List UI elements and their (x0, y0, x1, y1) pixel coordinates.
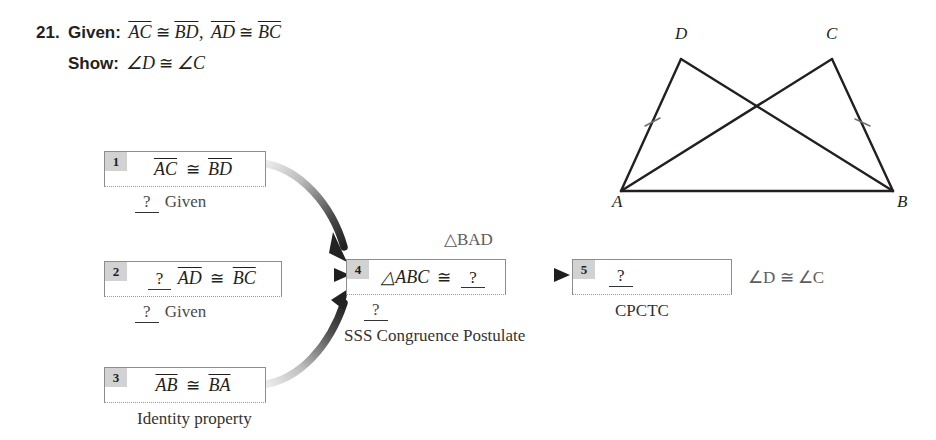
vertex-label-d: D (675, 24, 687, 44)
segment-db (681, 59, 893, 191)
box-4-triangle-abc: △ABC (381, 267, 429, 287)
box-number-2: 2 (105, 262, 127, 281)
box-3-congruence-symbol: ≅ (182, 376, 204, 395)
box-1-reason-blank[interactable]: ? (135, 193, 159, 213)
box-4-answer-above: △BAD (444, 229, 493, 250)
show-angle-c: ∠C (177, 52, 205, 74)
box-4-statement-blank[interactable]: ? (461, 269, 485, 289)
flowchart-box-3[interactable]: 3 AB ≅ BA (104, 367, 266, 403)
tick-mark-ad (645, 118, 660, 126)
congruence-symbol-2: ≅ (235, 22, 257, 43)
vertex-label-c: C (826, 24, 837, 44)
box-4-statement: △ABC ≅ ? (347, 266, 505, 289)
flowchart-box-2[interactable]: 2 ? AD ≅ BC (104, 261, 282, 297)
flowchart-box-1[interactable]: 1 AC ≅ BD (104, 151, 266, 187)
arrow-box1-to-box4 (262, 163, 347, 262)
flowchart-box-5[interactable]: 5 ? (572, 259, 732, 295)
box-1-reason: ? Given (133, 192, 206, 213)
box-number-1: 1 (105, 152, 127, 171)
box-2-segment-left: AD (177, 268, 202, 288)
congruence-symbol-1: ≅ (152, 22, 174, 43)
box-2-statement: ? AD ≅ BC (105, 268, 281, 290)
arrow-box3-to-box4 (262, 289, 348, 385)
box-3-reason-text: Identity property (137, 409, 252, 429)
box-number-5: 5 (573, 260, 595, 279)
arrow-box2-to-box4 (282, 268, 350, 282)
box-3-statement: AB ≅ BA (105, 375, 265, 396)
box-1-segment-left: AC (153, 159, 177, 179)
box-3-segment-right: BA (208, 375, 231, 395)
flowchart-box-4[interactable]: 4 △ABC ≅ ? (346, 259, 506, 295)
box-4-reason-text: SSS Congruence Postulate (344, 326, 525, 346)
vertex-label-b: B (897, 192, 907, 212)
tick-mark-bc (855, 119, 870, 126)
vertex-label-a: A (612, 192, 622, 212)
segment-ad (621, 59, 681, 191)
box-2-reason: ? Given (133, 302, 206, 323)
box-5-reason-text: CPCTC (615, 301, 669, 321)
show-label: Show: (68, 54, 119, 74)
box-4-congruence-symbol: ≅ (433, 268, 455, 287)
box-2-reason-text: Given (165, 302, 207, 321)
box-4-reason-blank[interactable]: ? (364, 301, 388, 321)
show-congruence-symbol: ≅ (155, 53, 177, 74)
box-5-statement: ? (573, 267, 731, 287)
show-angle-d: ∠D (126, 52, 155, 74)
worksheet-page: 21. Given: AC ≅ BD , AD ≅ BC Show: ∠D ≅ … (0, 0, 936, 440)
box-4-reason-blank-wrap: ? (362, 300, 390, 321)
problem-number: 21. (36, 23, 68, 43)
box-2-segment-right: BC (232, 268, 256, 288)
given-segment-bd: BD (174, 22, 199, 43)
segment-cb (832, 59, 893, 191)
arrow-box4-to-box5 (506, 268, 570, 282)
box-2-congruence-symbol: ≅ (206, 269, 228, 288)
box-1-segment-right: BD (208, 159, 233, 179)
box-number-3: 3 (105, 368, 127, 387)
box-number-4: 4 (347, 260, 369, 279)
segment-ac (621, 59, 832, 191)
box-1-congruence-symbol: ≅ (182, 160, 204, 179)
given-segment-ad: AD (210, 22, 235, 43)
given-segment-ac: AC (128, 22, 152, 43)
given-label: Given: (68, 23, 121, 43)
show-line: Show: ∠D ≅ ∠C (36, 52, 556, 82)
box-2-reason-blank[interactable]: ? (135, 303, 159, 323)
problem-statement: 21. Given: AC ≅ BD , AD ≅ BC Show: ∠D ≅ … (36, 22, 556, 82)
box-2-statement-blank[interactable]: ? (148, 270, 172, 290)
box-5-answer-right: ∠D ≅ ∠C (748, 267, 824, 288)
given-line: 21. Given: AC ≅ BD , AD ≅ BC (36, 22, 556, 52)
box-1-statement: AC ≅ BD (105, 159, 265, 180)
given-segment-bc: BC (257, 22, 281, 43)
box-5-statement-blank[interactable]: ? (609, 267, 633, 287)
given-comma: , (199, 22, 204, 43)
box-1-reason-text: Given (165, 192, 207, 211)
box-3-segment-left: AB (155, 375, 178, 395)
